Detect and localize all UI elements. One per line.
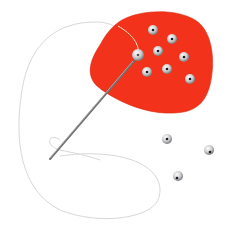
bead [162,64,172,74]
loose-beads [162,134,214,181]
threaded-bead [132,49,144,61]
sewing-illustration [0,0,228,236]
bead [148,25,158,35]
bead [185,74,195,84]
bead [179,52,189,62]
bead [204,145,214,155]
bead [162,134,172,144]
illustration-scene [0,0,228,236]
bead [142,67,152,77]
bead [173,171,183,181]
bead [167,34,177,44]
thread-knot [50,138,100,160]
bead [153,46,163,56]
